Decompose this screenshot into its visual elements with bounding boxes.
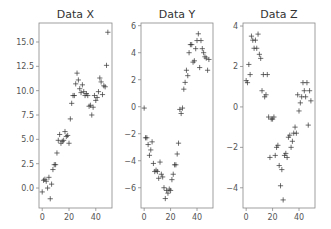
- plus-marker: [45, 185, 50, 190]
- plus-marker: [50, 167, 55, 172]
- plus-marker: [255, 32, 260, 37]
- x-axis-ticks: 02040: [40, 208, 101, 222]
- plus-marker: [89, 112, 94, 117]
- plus-marker: [308, 98, 313, 103]
- plus-marker: [202, 54, 207, 59]
- plus-marker: [68, 116, 73, 121]
- plus-marker: [151, 161, 156, 166]
- plus-marker: [72, 93, 77, 98]
- x-tick-label: 20: [267, 213, 277, 222]
- plus-marker: [163, 196, 168, 201]
- plus-marker: [64, 134, 69, 139]
- y-tick-label: −4: [124, 157, 136, 166]
- y-tick-label: 0: [233, 103, 238, 112]
- plus-marker: [40, 189, 45, 194]
- x-tick-label: 40: [91, 213, 101, 222]
- plus-marker: [62, 129, 67, 134]
- x-axis-ticks: 02040: [244, 208, 304, 222]
- plus-marker: [105, 30, 110, 35]
- y-tick-label: −2: [124, 130, 136, 139]
- x-axis-ticks: 02040: [142, 208, 202, 222]
- plus-marker: [56, 138, 61, 143]
- y-tick-label: 12.5: [16, 62, 34, 71]
- plus-marker: [61, 138, 66, 143]
- y-tick-label: 10.0: [16, 87, 34, 96]
- plus-marker: [190, 60, 195, 65]
- subplot-title: Data Z: [260, 8, 298, 21]
- y-tick-label: 2: [233, 62, 238, 71]
- plus-marker: [254, 46, 259, 51]
- plus-marker: [65, 133, 70, 138]
- plus-marker: [173, 162, 178, 167]
- plus-marker: [298, 100, 303, 105]
- plus-marker: [183, 80, 188, 85]
- plus-marker: [185, 73, 190, 78]
- plus-marker: [97, 75, 102, 80]
- plus-marker: [197, 65, 202, 70]
- plus-marker: [49, 182, 54, 187]
- plus-marker: [169, 177, 174, 182]
- plus-marker: [302, 88, 307, 93]
- plus-marker: [281, 197, 286, 202]
- plus-marker: [54, 150, 59, 155]
- plus-marker: [80, 82, 85, 87]
- plus-marker: [193, 46, 198, 51]
- x-tick-label: 20: [165, 213, 175, 222]
- plus-marker: [41, 178, 46, 183]
- plus-marker: [179, 111, 184, 116]
- plus-marker: [290, 139, 295, 144]
- plus-marker: [177, 107, 182, 112]
- y-tick-label: 5.0: [21, 135, 34, 144]
- plus-marker: [206, 57, 211, 62]
- plus-marker: [74, 71, 79, 76]
- subplot-data-x: Data X 0.02.55.07.510.012.515.0 02040: [16, 8, 112, 222]
- plus-marker: [307, 88, 312, 93]
- y-tick-label: −2: [226, 143, 238, 152]
- plus-marker: [306, 123, 311, 128]
- plus-marker: [161, 185, 166, 190]
- plus-marker: [78, 90, 83, 95]
- plus-marker: [279, 167, 284, 172]
- y-tick-label: 0.0: [21, 184, 34, 193]
- plus-marker: [96, 89, 101, 94]
- plus-marker: [192, 58, 197, 63]
- x-tick-label: 0: [244, 213, 249, 222]
- plus-marker: [168, 188, 173, 193]
- y-tick-label: 2.5: [21, 160, 34, 169]
- plus-marker: [204, 56, 209, 61]
- plus-marker: [147, 153, 152, 158]
- plus-marker: [76, 77, 81, 82]
- plus-marker: [48, 196, 53, 201]
- plus-marker: [157, 159, 162, 164]
- plus-marker: [93, 98, 98, 103]
- plus-marker: [73, 81, 78, 86]
- plus-marker: [189, 42, 194, 47]
- y-tick-label: 7.5: [21, 111, 34, 120]
- plus-marker: [248, 72, 253, 77]
- plus-marker: [258, 56, 263, 61]
- x-tick-label: 0: [142, 213, 147, 222]
- plus-marker: [257, 52, 262, 57]
- y-tick-label: 4: [131, 49, 136, 58]
- x-tick-label: 0: [40, 213, 45, 222]
- plus-marker: [288, 145, 293, 150]
- plus-marker: [184, 68, 189, 73]
- plus-marker: [277, 163, 282, 168]
- y-tick-label: −4: [226, 184, 238, 193]
- plus-marker: [253, 38, 258, 43]
- plus-marker: [142, 105, 147, 110]
- plus-marker: [278, 183, 283, 188]
- plus-marker: [205, 68, 210, 73]
- plus-marker: [77, 86, 82, 91]
- plus-marker: [249, 34, 254, 39]
- plus-marker: [171, 172, 176, 177]
- plus-marker: [181, 87, 186, 92]
- axes-frame: [39, 23, 112, 208]
- plus-marker: [198, 38, 203, 43]
- subplot-title: Data X: [57, 8, 95, 21]
- plus-marker: [69, 101, 74, 106]
- plus-marker: [246, 62, 251, 67]
- plus-marker: [294, 131, 299, 136]
- plus-marker: [196, 31, 201, 36]
- plus-marker: [304, 80, 309, 85]
